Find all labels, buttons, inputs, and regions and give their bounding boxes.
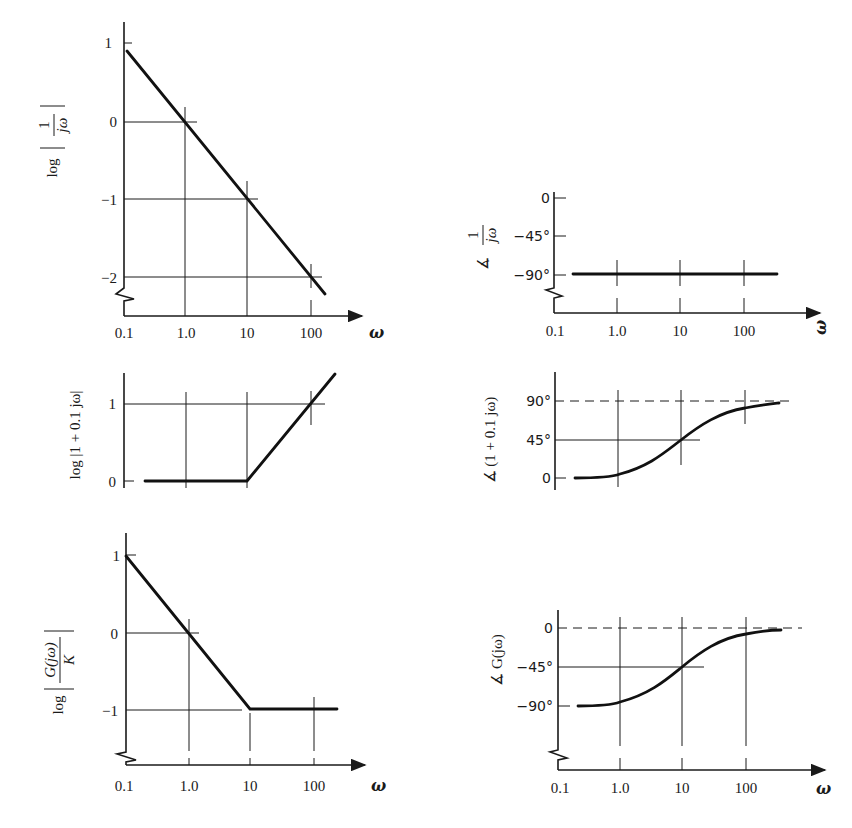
- y-tick-label: 0: [542, 470, 551, 486]
- y-tick-label: 0: [541, 190, 550, 206]
- y-tick-label: 0: [544, 620, 553, 636]
- x-tick-label: 10: [243, 778, 258, 794]
- bode-diagram: 1 0 −1 −2 0.1 1.0 10 100 ω log 1 jω: [0, 0, 852, 828]
- svg-text:log: log: [50, 695, 66, 715]
- y-tick-label: 1: [105, 35, 113, 51]
- y-tick-label: −45°: [516, 659, 553, 675]
- x-tick-label: 10: [240, 325, 255, 341]
- y-tick-label: −90°: [516, 698, 553, 714]
- y-axis-label: log 1 jω: [36, 106, 70, 178]
- y-tick-label: 1: [109, 396, 117, 412]
- y-axis-label: log |1 + 0.1 jω|: [67, 391, 83, 480]
- x-tick-label: 1.0: [180, 778, 199, 794]
- y-axis-label: log G(jω) K: [42, 631, 77, 715]
- svg-text:∡: ∡: [475, 257, 491, 270]
- panel-phase-lead: 90° 45° 0 ∡ (1 + 0.1 jω): [482, 372, 795, 490]
- svg-text:K: K: [61, 654, 77, 666]
- y-tick-label: −45°: [513, 228, 550, 244]
- y-tick-label: 0: [109, 474, 117, 490]
- y-tick-label: 1: [113, 548, 121, 564]
- x-tick-label: 100: [735, 780, 758, 796]
- panel-phase-total: 0 −45° −90° 0.1 1.0 10 100 ω ∡ G(jω): [489, 610, 831, 798]
- svg-text:G(jω): G(jω): [42, 642, 59, 678]
- y-axis: [116, 22, 134, 316]
- x-tick-label: 0.1: [546, 323, 565, 339]
- x-tick-label: 10: [675, 780, 690, 796]
- y-axis-label: ∡ 1 jω: [465, 225, 499, 270]
- y-tick-label: 0: [110, 114, 118, 130]
- panel-magnitude-total: 1 0 −1 0.1 1.0 10 100 ω log G(jω) K: [42, 533, 386, 795]
- svg-text:log: log: [44, 158, 60, 178]
- y-tick-label: 0: [111, 626, 119, 642]
- omega-axis-label: ω: [816, 779, 831, 798]
- phase-curve: [578, 630, 781, 706]
- x-tick-label: 1.0: [611, 780, 630, 796]
- y-tick-label: −1: [101, 192, 117, 208]
- y-tick-label: −1: [102, 703, 118, 719]
- magnitude-curve: [127, 51, 325, 294]
- y-tick-label: 90°: [526, 393, 551, 409]
- x-tick-label: 0.1: [115, 325, 134, 341]
- x-tick-label: 1.0: [608, 323, 627, 339]
- panel-phase-integrator: 0 −45° −90° 0.1 1.0 10 100 ω ∡ 1 jω: [465, 190, 830, 339]
- x-tick-label: 1.0: [177, 325, 196, 341]
- omega-axis-label: ω: [811, 320, 830, 335]
- y-axis-label: ∡ G(jω): [489, 634, 506, 686]
- x-tick-label: 100: [300, 325, 323, 341]
- svg-text:jω: jω: [54, 118, 70, 135]
- x-tick-label: 0.1: [551, 780, 570, 796]
- omega-axis-label: ω: [371, 776, 386, 795]
- x-tick-label: 100: [733, 323, 756, 339]
- x-tick-label: 100: [303, 778, 326, 794]
- y-tick-label: −90°: [513, 267, 550, 283]
- panel-magnitude-integrator: 1 0 −1 −2 0.1 1.0 10 100 ω log 1 jω: [36, 22, 384, 342]
- magnitude-curve: [145, 374, 335, 481]
- y-axis-label: ∡ (1 + 0.1 jω): [482, 397, 499, 484]
- omega-axis-label: ω: [369, 323, 384, 342]
- svg-text:1: 1: [36, 121, 52, 129]
- x-tick-label: 10: [673, 323, 688, 339]
- y-tick-label: −2: [101, 270, 117, 286]
- x-tick-label: 0.1: [115, 778, 134, 794]
- svg-text:jω: jω: [483, 228, 499, 245]
- panel-magnitude-lead: 1 0 log |1 + 0.1 jω|: [67, 373, 335, 490]
- svg-text:1: 1: [465, 231, 481, 239]
- y-tick-label: 45°: [526, 432, 551, 448]
